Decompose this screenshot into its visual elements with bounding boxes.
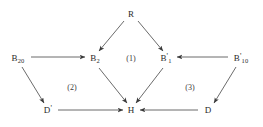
node-b2: B2 <box>90 54 100 65</box>
node-subscript: 20 <box>18 57 25 64</box>
node-h: H <box>128 106 135 115</box>
node-b10p: B'10 <box>234 53 249 64</box>
arrow-R-to-B2 <box>99 21 124 51</box>
arrow-B10p-to-D <box>214 67 236 103</box>
region-3: (3) <box>185 84 194 92</box>
node-base-label: H <box>128 105 135 115</box>
node-d: D <box>205 106 212 115</box>
arrow-R-to-B1p <box>138 21 163 51</box>
node-b20: B20 <box>12 54 25 65</box>
node-base-label: D <box>44 105 51 115</box>
node-subscript: 1 <box>168 57 171 64</box>
node-b1p: B'1 <box>160 53 171 64</box>
node-base-label: R <box>128 9 134 19</box>
node-base-label: D <box>205 105 212 115</box>
arrow-B1p-to-H <box>136 68 163 103</box>
arrow-B2-to-H <box>99 68 127 103</box>
node-prime-mark: ' <box>51 104 53 113</box>
node-r: R <box>128 10 134 19</box>
arrow-B20-to-Dp <box>22 67 44 103</box>
commutative-diagram: RB20B2B'1B'10D'HD (1)(2)(3) <box>0 0 263 127</box>
node-subscript: 2 <box>96 57 99 64</box>
region-1: (1) <box>126 55 135 63</box>
node-subscript: 10 <box>242 57 249 64</box>
node-dp: D' <box>44 105 52 114</box>
region-2: (2) <box>67 84 76 92</box>
